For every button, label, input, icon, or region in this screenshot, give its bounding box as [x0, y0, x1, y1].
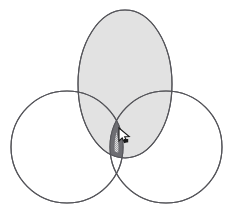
venn-diagram-figure [0, 0, 231, 217]
venn-diagram-canvas [0, 0, 231, 217]
cursor-shadow-block [124, 139, 128, 142]
